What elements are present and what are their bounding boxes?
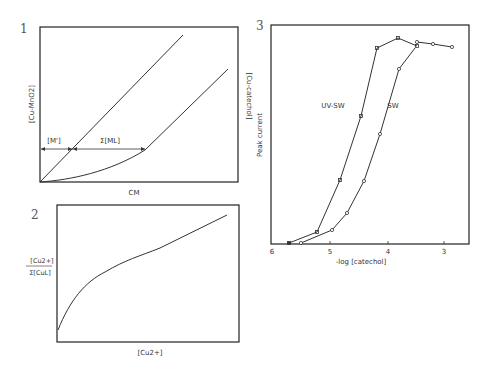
panel-3-xlabel: -log [catechol] — [336, 258, 387, 266]
panel-2-ylabel-denominator: Σ[CuL] — [29, 269, 50, 277]
panel-2-ylabel-numerator: [Cu2+] — [30, 257, 53, 265]
panel-2: 2 [Cu2+] Σ[CuL] [Cu2+] — [26, 205, 239, 357]
panel-2-xlabel: [Cu2+] — [137, 349, 162, 357]
tick-label: 3 — [442, 248, 446, 256]
panel-2-number: 2 — [31, 208, 39, 222]
figure: 1 [Cu-MnO2] CM [M'] Σ[ML] [Cu-catechol] … — [0, 0, 492, 374]
series-sw-label: SW — [387, 102, 398, 110]
panel-1: 1 [Cu-MnO2] CM [M'] Σ[ML] [Cu-catechol] — [20, 22, 253, 197]
panel-1-total-line — [40, 35, 183, 182]
tick-label: 6 — [270, 248, 275, 256]
panel-1-ylabel: [Cu-MnO2] — [28, 85, 36, 123]
panel-1-frame — [40, 27, 238, 182]
bound-metal-label: Σ[ML] — [100, 137, 120, 145]
arrowhead-icon — [41, 147, 45, 151]
panel-2-frame — [57, 205, 239, 342]
panel-3: 3 Peak current 6 5 4 3 -log [catechol] — [256, 19, 469, 266]
x-axis-ticks: 6 5 4 3 — [270, 241, 446, 256]
panel-3-frame — [271, 25, 469, 244]
series-sw-markers — [299, 40, 453, 244]
panel-2-curve — [58, 215, 227, 330]
tick-label: 4 — [386, 248, 391, 256]
series-sw-line — [301, 48, 415, 243]
tick-label: 5 — [328, 248, 332, 256]
free-metal-label: [M'] — [47, 137, 61, 145]
panel-3-number: 3 — [256, 19, 264, 33]
panel-1-number: 1 — [20, 22, 28, 36]
series-uvsw-label: UV-SW — [321, 102, 344, 110]
panel-3-ylabel: Peak current — [256, 113, 264, 157]
panel-1-xlabel: CM — [129, 189, 140, 197]
panel-1-right-label: [Cu-catechol] — [245, 72, 253, 119]
